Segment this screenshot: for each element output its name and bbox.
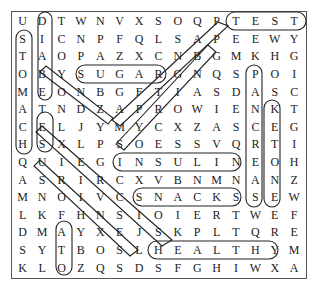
grid-letter: G	[110, 66, 129, 84]
grid-letter: Q	[13, 154, 32, 172]
grid-letter: R	[149, 101, 168, 119]
grid-letter: T	[226, 224, 245, 242]
grid-letter: L	[13, 207, 32, 225]
grid-letter: P	[207, 31, 226, 49]
grid-letter: L	[32, 259, 51, 277]
grid-letter: W	[284, 189, 303, 207]
grid-letter: S	[32, 136, 51, 154]
grid-letter: R	[149, 66, 168, 84]
grid-letter: V	[207, 136, 226, 154]
grid-letter: R	[52, 171, 71, 189]
grid-letter: L	[129, 242, 148, 260]
grid-letter: P	[188, 224, 207, 242]
grid-letter: C	[188, 189, 207, 207]
grid-letter: T	[265, 136, 284, 154]
grid-letter: Y	[52, 66, 71, 84]
grid-letter: D	[129, 259, 148, 277]
grid-letter: A	[168, 189, 187, 207]
grid-letter: P	[91, 31, 110, 49]
grid-letter: Q	[91, 259, 110, 277]
grid-letter: S	[149, 224, 168, 242]
grid-letter: E	[246, 13, 265, 31]
grid-letter: O	[91, 242, 110, 260]
grid-letter: C	[52, 31, 71, 49]
grid-letter: I	[207, 101, 226, 119]
grid-letter: P	[91, 136, 110, 154]
grid-letter: A	[32, 48, 51, 66]
grid-letter: J	[129, 224, 148, 242]
grid-letter: B	[91, 83, 110, 101]
grid-letter: E	[246, 154, 265, 172]
grid-letter: N	[188, 66, 207, 84]
grid-letter: W	[265, 31, 284, 49]
grid-letter: N	[71, 83, 90, 101]
grid-letter: H	[207, 259, 226, 277]
grid-letter: O	[52, 189, 71, 207]
grid-letter: A	[52, 224, 71, 242]
grid-letter: O	[168, 13, 187, 31]
grid-letter: L	[52, 119, 71, 137]
grid-letter: Y	[129, 119, 148, 137]
grid-letter: E	[149, 136, 168, 154]
grid-letter: B	[188, 48, 207, 66]
grid-letter: O	[52, 259, 71, 277]
grid-letter: X	[129, 171, 148, 189]
grid-letter: Q	[207, 66, 226, 84]
grid-letter: M	[226, 48, 245, 66]
grid-letter: G	[284, 119, 303, 137]
grid-letter: M	[13, 83, 32, 101]
grid-letter: L	[207, 224, 226, 242]
grid-letter: M	[110, 119, 129, 137]
grid-letter: N	[226, 154, 245, 172]
grid-letter: S	[149, 259, 168, 277]
grid-letter: H	[284, 154, 303, 172]
grid-letter: K	[13, 259, 32, 277]
grid-letter: T	[284, 101, 303, 119]
grid-letter: V	[149, 171, 168, 189]
grid-letter: X	[91, 224, 110, 242]
grid-letter: W	[246, 259, 265, 277]
grid-letter: P	[246, 66, 265, 84]
grid-letter: E	[168, 242, 187, 260]
grid-letter: N	[168, 48, 187, 66]
grid-letter: A	[188, 31, 207, 49]
grid-letter: A	[284, 259, 303, 277]
grid-letter: S	[226, 66, 245, 84]
grid-letter: F	[52, 207, 71, 225]
grid-letter: T	[13, 48, 32, 66]
grid-letter: I	[284, 66, 303, 84]
grid-letter: G	[110, 83, 129, 101]
grid-letter: O	[129, 136, 148, 154]
grid-letter: H	[71, 207, 90, 225]
grid-letter: K	[32, 207, 51, 225]
grid-letter: I	[284, 136, 303, 154]
grid-letter: X	[168, 119, 187, 137]
grid-letter: V	[110, 13, 129, 31]
grid-letter: C	[110, 189, 129, 207]
grid-letter: N	[91, 13, 110, 31]
grid-letter: S	[246, 189, 265, 207]
grid-letter: S	[226, 189, 245, 207]
grid-letter: F	[168, 259, 187, 277]
grid-letter: S	[149, 13, 168, 31]
grid-letter: E	[246, 31, 265, 49]
grid-letter: G	[168, 66, 187, 84]
grid-letter: Y	[265, 242, 284, 260]
grid-letter: E	[32, 119, 51, 137]
grid-letter: T	[226, 242, 245, 260]
grid-letter: N	[129, 154, 148, 172]
grid-letter: O	[52, 83, 71, 101]
grid-letter: R	[265, 224, 284, 242]
grid-letter: C	[110, 171, 129, 189]
grid-letter: N	[188, 171, 207, 189]
grid-letter: T	[226, 207, 245, 225]
grid-letter: H	[246, 242, 265, 260]
grid-letter: A	[13, 101, 32, 119]
grid-letter: D	[13, 224, 32, 242]
grid-letter: G	[284, 48, 303, 66]
grid-letter: Y	[71, 224, 90, 242]
grid-letter: T	[149, 83, 168, 101]
grid-letter: K	[265, 101, 284, 119]
grid-letter: I	[71, 189, 90, 207]
grid-letter: Z	[188, 119, 207, 137]
